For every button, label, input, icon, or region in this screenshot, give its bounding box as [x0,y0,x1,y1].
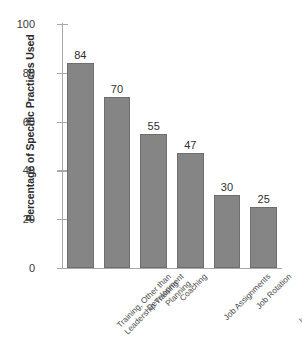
bar-group[interactable]: 30 [214,24,241,268]
bar-group[interactable]: 70 [104,24,131,268]
y-tick-label: 40 [0,164,35,176]
y-tick-label: 0 [0,262,35,274]
bar-group[interactable]: 84 [67,24,94,268]
x-axis-labels: Training, Other thanLeadership TrainingD… [62,270,302,346]
bar-group[interactable]: 55 [140,24,167,268]
x-axis-category-line: Internal Mentoring [297,272,302,326]
bar[interactable] [177,153,204,268]
bar-value-label: 25 [258,193,270,205]
bar[interactable] [140,134,167,268]
bar-value-label: 70 [111,83,123,95]
bars-layer: 847055473025 [62,24,282,268]
bar-group[interactable]: 47 [177,24,204,268]
bar-chart: Percentage of Specific Practices Used 02… [0,0,302,346]
x-axis-category-label: Internal MentoringPrograms [297,272,302,333]
bar-value-label: 55 [148,120,160,132]
bar[interactable] [250,207,277,268]
y-tick-label: 80 [0,67,35,79]
bar-value-label: 30 [221,181,233,193]
y-tick-label: 100 [0,18,35,30]
bar[interactable] [67,63,94,268]
bar-value-label: 84 [74,49,86,61]
bar-group[interactable]: 25 [250,24,277,268]
bar[interactable] [104,97,131,268]
y-tick-label: 20 [0,213,35,225]
bar[interactable] [214,195,241,268]
plot-area: 020406080100 847055473025 [62,24,282,268]
bar-value-label: 47 [184,139,196,151]
y-tick-label: 60 [0,116,35,128]
